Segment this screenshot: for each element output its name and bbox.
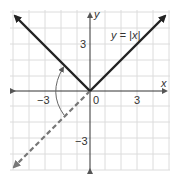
- x-tick-3: 3: [134, 94, 140, 106]
- x-axis-label: x: [160, 77, 167, 89]
- function-label: y = |x|: [110, 29, 140, 41]
- origin-label: 0: [93, 94, 99, 106]
- y-tick-3: 3: [80, 38, 86, 50]
- y-tick-neg3: −3: [75, 135, 88, 147]
- x-tick-neg3: −3: [37, 94, 50, 106]
- dashed-line-y-equals-x: [14, 91, 90, 167]
- right-branch: [90, 16, 165, 91]
- absolute-value-graph: x y −3 3 3 −3 0 y = |x|: [0, 0, 178, 179]
- y-axis-label: y: [93, 8, 101, 20]
- left-branch: [15, 16, 90, 91]
